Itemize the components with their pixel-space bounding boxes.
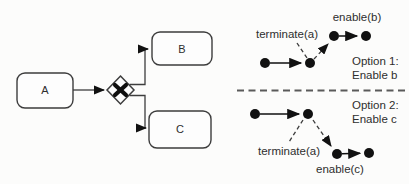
option1-caption-line1: Option 1: <box>352 55 399 67</box>
enable-b-label: enable(b) <box>333 11 382 23</box>
flow-gateway-to-b <box>130 49 149 85</box>
state-dot <box>305 58 315 68</box>
option2-caption-line1: Option 2: <box>352 99 399 111</box>
state-dot <box>361 31 371 41</box>
xor-gateway-icon <box>107 76 134 104</box>
task-a-label: A <box>41 84 49 96</box>
state-dot <box>329 31 339 41</box>
state-dot <box>303 109 313 119</box>
process-and-traces-figure: A B C <box>0 0 409 184</box>
diagram-canvas: A B C <box>0 0 409 184</box>
option1-caption-line2: Enable b <box>352 69 397 81</box>
state-dot <box>364 148 374 158</box>
flow-gateway-to-c <box>130 96 147 129</box>
terminate-a-label-option2: terminate(a) <box>258 145 320 157</box>
state-dot <box>250 109 260 119</box>
task-c-label: C <box>176 123 184 135</box>
terminate-a-label-option1: terminate(a) <box>256 28 318 40</box>
enable-c-dashed-arrow <box>313 120 331 146</box>
trace-arrow-solid <box>342 153 360 154</box>
terminate-leader-line-option2 <box>289 120 303 142</box>
option2-caption-line2: Enable c <box>352 113 397 125</box>
task-node-c: C <box>149 111 211 148</box>
trace-option-1: terminate(a) enable(b) Option 1: Enable … <box>256 11 399 81</box>
task-b-label: B <box>178 43 185 55</box>
terminate-leader-line-option1 <box>297 43 307 58</box>
bpmn-process: A B C <box>17 32 212 148</box>
task-node-b: B <box>152 32 212 65</box>
enable-b-dashed-arrow <box>314 44 328 59</box>
task-node-a: A <box>17 73 73 108</box>
enable-c-label: enable(c) <box>316 163 364 175</box>
trace-option-2: terminate(a) enable(c) Option 2: Enable … <box>250 99 399 175</box>
state-dot <box>332 149 342 159</box>
state-dot <box>260 58 270 68</box>
